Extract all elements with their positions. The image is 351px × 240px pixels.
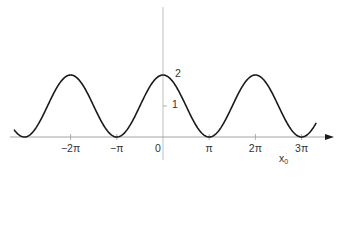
y-tick-label: 1 — [172, 98, 178, 110]
x-axis-arrow-icon — [325, 134, 334, 140]
x-axis-label: x0 — [279, 152, 288, 165]
x-axis-label-subscript: 0 — [284, 158, 288, 165]
x-tick-label: 2π — [249, 142, 262, 154]
x-tick-label: π — [206, 142, 213, 154]
x-tick-label: −2π — [61, 142, 80, 154]
x-tick-label: −π — [110, 142, 123, 154]
x-tick-label: 0 — [155, 142, 161, 154]
x-tick-label: 3π — [295, 142, 308, 154]
y-tick-label: 2 — [175, 67, 181, 79]
